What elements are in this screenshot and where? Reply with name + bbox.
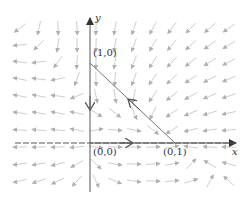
field-arrow-icon (114, 89, 116, 103)
field-arrow-icon (203, 111, 216, 115)
field-arrow-icon (14, 24, 25, 32)
field-arrow-icon (185, 93, 197, 100)
field-arrow-icon (13, 130, 27, 131)
field-arrow-icon (185, 110, 198, 115)
field-arrow-icon (77, 55, 78, 69)
field-arrow-icon (51, 162, 65, 165)
field-arrow-icon (167, 74, 177, 84)
field-arrow-icon (57, 38, 59, 52)
field-arrow-icon (52, 178, 65, 184)
field-arrow-icon (131, 107, 137, 120)
field-arrow-icon (70, 129, 84, 132)
field-arrow-icon (184, 179, 197, 183)
field-arrow-icon (93, 175, 99, 188)
field-arrow-icon (222, 111, 236, 114)
field-arrow-icon (13, 163, 27, 165)
field-arrow-icon (166, 126, 178, 133)
field-arrow-icon (71, 161, 83, 168)
field-arrow-icon (150, 107, 156, 120)
field-arrow-icon (224, 176, 234, 185)
field-arrow-icon (165, 163, 179, 166)
field-arrow-icon (109, 178, 122, 183)
field-arrow-icon (91, 159, 101, 169)
field-arrow-icon (13, 44, 27, 45)
separatrix-arrow-icon (128, 99, 140, 110)
field-arrow-icon (147, 126, 158, 135)
field-arrow-icon (146, 164, 160, 165)
field-arrow-icon (90, 109, 102, 117)
field-arrow-icon (127, 129, 141, 132)
field-arrow-icon (204, 93, 217, 98)
field-arrow-icon (186, 159, 196, 169)
field-arrow-icon (54, 56, 62, 67)
field-arrow-icon (72, 176, 81, 186)
field-arrow-icon (186, 40, 196, 49)
field-arrow-icon (13, 179, 27, 182)
field-arrow-icon (205, 24, 216, 33)
field-arrow-icon (127, 180, 141, 182)
field-arrow-icon (207, 175, 213, 187)
field-arrow-icon (32, 95, 46, 98)
field-arrow-icon (32, 163, 46, 165)
field-arrow-icon (13, 61, 27, 63)
field-arrow-icon (51, 112, 65, 115)
field-arrow-icon (186, 58, 197, 67)
field-arrow-icon (132, 38, 137, 51)
field-arrow-icon (114, 72, 115, 86)
field-arrow-icon (51, 78, 65, 81)
field-arrow-icon (204, 76, 216, 83)
field-arrow-icon (204, 58, 216, 65)
field-arrow-icon (166, 109, 178, 117)
field-arrow-icon (13, 95, 27, 98)
point-label-1-0: (1,0) (93, 47, 117, 58)
x-axis-label: x (232, 146, 238, 157)
vector-field (13, 21, 236, 187)
field-arrow-icon (13, 112, 27, 114)
field-arrow-icon (34, 40, 44, 50)
field-arrow-icon (89, 129, 103, 131)
field-arrow-icon (132, 21, 137, 34)
field-arrow-icon (37, 21, 40, 35)
field-arrow-icon (32, 179, 45, 183)
field-arrow-icon (204, 41, 215, 49)
field-arrow-icon (51, 95, 65, 97)
field-arrow-icon (32, 61, 46, 63)
field-arrow-icon (109, 109, 120, 118)
field-arrow-icon (146, 147, 160, 148)
field-arrow-icon (223, 76, 236, 82)
field-arrow-icon (71, 93, 84, 98)
field-arrow-icon (51, 129, 65, 131)
point-label-0-0: (0,0) (93, 146, 117, 157)
field-arrow-icon (223, 59, 235, 65)
field-arrow-icon (77, 21, 78, 35)
field-arrow-icon (222, 129, 236, 131)
field-arrow-icon (32, 78, 46, 80)
field-arrow-icon (149, 73, 157, 85)
field-arrow-icon (223, 41, 235, 48)
point-label-0-1: (0,1) (163, 146, 187, 157)
field-arrow-icon (223, 24, 234, 32)
field-arrow-icon (132, 55, 137, 68)
field-arrow-icon (32, 112, 46, 114)
field-arrow-icon (185, 75, 197, 83)
field-arrow-icon (108, 163, 122, 165)
y-axis-label: y (95, 12, 101, 23)
field-arrow-icon (167, 92, 178, 101)
field-arrow-icon (149, 39, 156, 51)
field-arrow-icon (167, 40, 176, 51)
field-arrow-icon (132, 72, 137, 85)
phase-portrait (0, 0, 248, 204)
field-arrow-icon (203, 147, 217, 148)
field-arrow-icon (58, 21, 59, 35)
field-arrow-icon (222, 94, 235, 98)
field-arrow-icon (133, 89, 136, 103)
field-arrow-icon (204, 160, 216, 167)
field-arrow-icon (165, 180, 179, 181)
field-arrow-icon (32, 129, 46, 130)
field-arrow-icon (203, 129, 217, 131)
field-arrow-icon (167, 57, 177, 67)
field-arrow-icon (13, 78, 27, 81)
field-arrow-icon (108, 129, 122, 130)
field-arrow-icon (186, 23, 196, 33)
field-arrow-icon (70, 112, 84, 115)
